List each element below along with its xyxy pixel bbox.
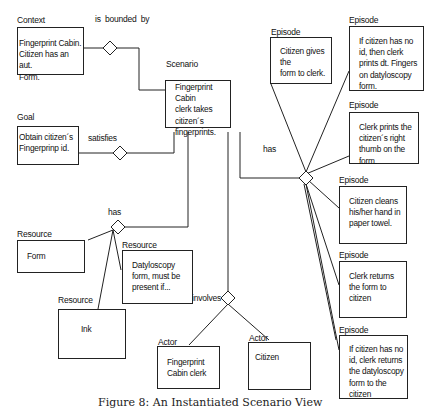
relation-label-bounded: is bounded by bbox=[95, 14, 149, 24]
relation-diamond-satisfies bbox=[113, 146, 127, 160]
context-type-label: Context bbox=[17, 15, 45, 25]
goal-type-label: Goal bbox=[17, 112, 34, 122]
episode-node-4: Citizen cleans his/her hand in paper tow… bbox=[339, 186, 407, 244]
actor-node-clerk: Fingerprint Cabin clerk bbox=[157, 346, 220, 389]
episode-node-5: Clerk returns the form to citizen bbox=[339, 261, 407, 318]
resource-type-label-ink: Resource bbox=[58, 295, 93, 305]
relation-label-has-episodes: has bbox=[263, 144, 276, 154]
resource-node-form: Form bbox=[17, 240, 85, 273]
relation-label-satisfies: satisfies bbox=[88, 133, 117, 143]
episode-node-2: If citizen has no id, then clerk prints … bbox=[349, 26, 424, 91]
relation-label-involves: involves bbox=[192, 293, 221, 303]
episode-node-6: If citizen has no id, clerk returns the … bbox=[339, 335, 408, 399]
resource-type-label-form: Resource bbox=[17, 229, 52, 239]
goal-node: Obtain citizen´s Fingerprinp id. bbox=[17, 126, 79, 165]
context-node: Fingerprint Cabin. Citizen has an aut. F… bbox=[17, 27, 84, 75]
episode-type-label-5: Episode bbox=[339, 250, 368, 260]
resource-node-ink: Ink bbox=[58, 309, 126, 359]
resource-type-label-datyloscopy: Resource bbox=[122, 240, 157, 250]
episode-type-label-1: Episode bbox=[271, 27, 300, 37]
resource-node-datyloscopy: Datyloscopy form, must be present if... bbox=[122, 250, 193, 304]
episode-type-label-6: Episode bbox=[339, 325, 368, 335]
figure-caption: Figure 8: An Instantiated Scenario View bbox=[98, 396, 322, 409]
scenario-node: Fingerprint Cabin clerk takes citizen´s … bbox=[165, 80, 231, 128]
relation-diamond-involves bbox=[221, 291, 235, 305]
scenario-type-label: Scenario bbox=[166, 59, 198, 69]
episode-type-label-3: Episode bbox=[349, 100, 378, 110]
episode-type-label-4: Episode bbox=[339, 175, 368, 185]
relation-diamond-bounded bbox=[103, 41, 117, 55]
relation-label-has-resources: has bbox=[108, 207, 121, 217]
episode-node-3: Clerk prints the citizen´s right thumb o… bbox=[349, 112, 419, 164]
actor-node-citizen: Citizen bbox=[248, 342, 311, 390]
episode-type-label-2: Episode bbox=[349, 15, 378, 25]
episode-node-1: Citizen gives the form to clerk. bbox=[270, 37, 332, 84]
